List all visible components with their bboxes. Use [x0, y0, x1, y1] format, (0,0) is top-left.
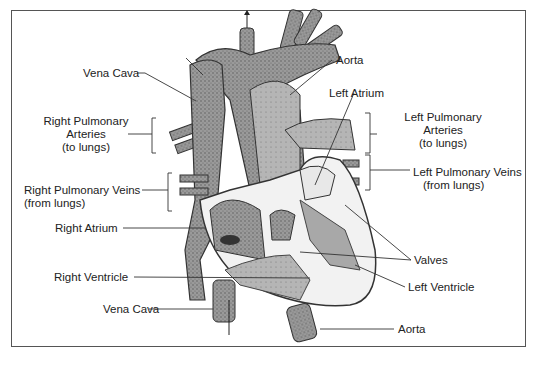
right-atrium-opening: [220, 235, 240, 245]
left-atrium-chamber: [300, 166, 335, 200]
label-valves: Valves: [414, 254, 448, 267]
label-vena-cava-top: Vena Cava: [83, 67, 139, 80]
label-aorta-bottom: Aorta: [398, 323, 426, 336]
descending-aorta: [285, 302, 317, 343]
label-right-pulmonary-arteries: Right Pulmonary Arteries (to lungs): [40, 115, 132, 154]
right-pulmonary-vein-2: [180, 188, 208, 195]
right-atrium-chamber: [210, 200, 265, 260]
label-aorta-top: Aorta: [336, 54, 364, 67]
valve-region: [270, 210, 295, 240]
label-left-pulmonary-arteries: Left Pulmonary Arteries (to lungs): [393, 111, 493, 150]
label-left-ventricle: Left Ventricle: [408, 281, 474, 294]
label-right-ventricle: Right Ventricle: [54, 271, 128, 284]
label-vena-cava-bottom: Vena Cava: [103, 303, 159, 316]
label-left-pulmonary-veins: Left Pulmonary Veins (from lungs): [413, 166, 522, 192]
right-pulmonary-vein-1: [180, 175, 208, 182]
label-right-pulmonary-veins: Right Pulmonary Veins (from lungs): [24, 184, 140, 210]
label-right-atrium: Right Atrium: [55, 222, 118, 235]
label-left-atrium: Left Atrium: [329, 87, 384, 100]
inferior-vena-cava: [213, 280, 235, 322]
